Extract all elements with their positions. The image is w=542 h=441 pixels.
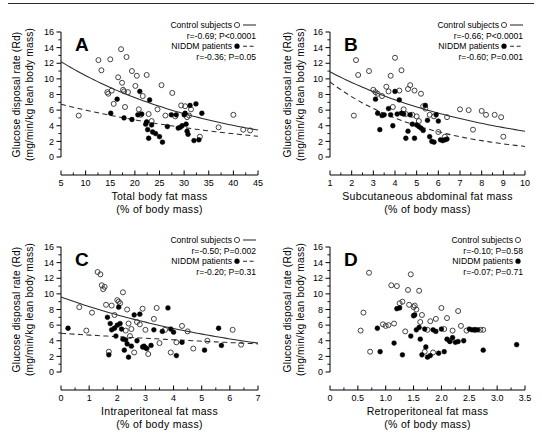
data-point [408, 83, 413, 88]
series-control-points [358, 270, 486, 355]
data-point [392, 341, 397, 346]
x-tick-label: 7 [457, 178, 462, 188]
y-axis-title: Glucose disposal rate (Rd) [11, 247, 22, 373]
x-tick-label: 0 [327, 393, 332, 403]
data-point [356, 72, 361, 77]
figure-four-panel-scatter: 024681012141651015202530354045Total body… [0, 0, 542, 441]
data-point [479, 108, 484, 113]
data-point [382, 112, 387, 117]
data-point [108, 111, 113, 116]
data-point [375, 326, 380, 331]
panel-letter: C [75, 249, 89, 270]
x-tick-label: 2.0 [435, 393, 448, 403]
y-tick-label: 10 [44, 74, 54, 84]
legend-stats-niddm: r=-0.07; P=0.71 [463, 267, 523, 277]
y-tick-label: 12 [44, 58, 54, 68]
data-point [388, 73, 393, 78]
data-point [143, 327, 148, 332]
x-tick-label: 6 [436, 178, 441, 188]
y-tick-label: 0 [49, 367, 54, 377]
data-point [241, 127, 246, 132]
data-point [354, 58, 359, 63]
data-point [84, 328, 89, 333]
data-point [191, 346, 196, 351]
data-point [184, 122, 189, 127]
plot-area-b: 024681012141612345678910Subcutaneous abd… [282, 20, 530, 215]
x-tick-label: 0.5 [352, 393, 365, 403]
y-tick-label: 8 [49, 90, 54, 100]
data-point [423, 103, 428, 108]
y-tick-label: 16 [313, 242, 323, 252]
legend-stats-niddm: r=-0.20; P=0.31 [196, 267, 256, 277]
data-point [140, 94, 145, 99]
data-point [428, 319, 433, 324]
data-point [419, 312, 424, 317]
x-tick-label: 10 [81, 178, 91, 188]
data-point [109, 303, 114, 308]
data-point [174, 112, 179, 117]
data-point [412, 313, 417, 318]
data-point [471, 127, 476, 132]
data-point [174, 340, 179, 345]
x-tick-label: 2 [349, 178, 354, 188]
data-point [122, 116, 127, 121]
data-point [400, 352, 405, 357]
legend-stats-control: r=-0.50; P=0.002 [192, 246, 257, 256]
data-point [421, 128, 426, 133]
data-point [113, 334, 118, 339]
y-tick-label: 4 [318, 121, 323, 131]
data-point [104, 302, 109, 307]
y-axis-title: Glucose disposal rate (Rd) [282, 32, 293, 158]
data-point [136, 107, 141, 112]
data-point [394, 284, 399, 289]
x-tick-label: 3 [371, 178, 376, 188]
data-point [418, 337, 423, 342]
legend-label-control: Control subjects [170, 20, 232, 30]
data-point [118, 321, 123, 326]
y-tick-label: 2 [318, 137, 323, 147]
x-tick-label: 5 [199, 393, 204, 403]
data-point [397, 98, 402, 103]
data-point [386, 89, 391, 94]
data-point [450, 335, 455, 340]
y-tick-label: 0 [318, 367, 323, 377]
data-point [393, 89, 398, 94]
data-point [499, 115, 504, 120]
data-point [155, 107, 160, 112]
x-tick-label: 35 [204, 178, 214, 188]
panel-b: 024681012141612345678910Subcutaneous abd… [271, 10, 542, 215]
x-tick-label: 5 [58, 178, 63, 188]
data-point [361, 310, 366, 315]
y-tick-label: 2 [318, 352, 323, 362]
y-tick-label: 6 [318, 320, 323, 330]
data-point [390, 123, 395, 128]
y-tick-label: 14 [44, 43, 54, 53]
y-tick-label: 14 [44, 258, 54, 268]
y-tick-label: 12 [44, 273, 54, 283]
data-point [157, 134, 162, 139]
data-point [375, 111, 380, 116]
data-point [149, 343, 154, 348]
x-tick-label: 3.5 [519, 393, 532, 403]
data-point [105, 315, 110, 320]
x-axis-title: Total body fat mass [111, 190, 207, 202]
y-tick-label: 0 [49, 152, 54, 162]
data-point [433, 316, 438, 321]
legend-label-control: Control subjects [170, 235, 232, 245]
x-axis-units: (% of body mass) [116, 418, 203, 430]
x-axis-units: (% of body mass) [384, 418, 471, 430]
legend-marker-open-circle [515, 237, 520, 242]
data-point [157, 341, 162, 346]
legend-d: Control subjectsr=-0.10; P=0.58NIDDM pat… [451, 235, 523, 277]
y-tick-label: 12 [313, 273, 323, 283]
legend-b: Control subjectsr=-0.66; P<0.0001NIDDM p… [437, 20, 523, 62]
y-tick-label: 0 [318, 152, 323, 162]
data-point [401, 112, 406, 117]
legend-label-control: Control subjects [451, 235, 513, 245]
data-point [132, 350, 137, 355]
data-point [397, 88, 402, 93]
x-axis-units: (% of body mass) [116, 203, 203, 215]
data-point [230, 327, 235, 332]
x-tick-label: 0 [58, 393, 63, 403]
data-point [122, 348, 127, 353]
